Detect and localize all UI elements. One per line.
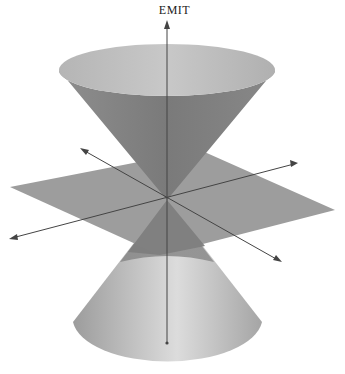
double-cone-diagram — [0, 0, 345, 374]
arrowhead-lower-left-icon — [9, 234, 18, 240]
arrowhead-upper-left-icon — [80, 148, 89, 155]
arrowhead-up-icon — [164, 20, 170, 29]
arrowhead-lower-right-icon — [273, 255, 282, 262]
arrowhead-upper-right-icon — [290, 160, 298, 167]
